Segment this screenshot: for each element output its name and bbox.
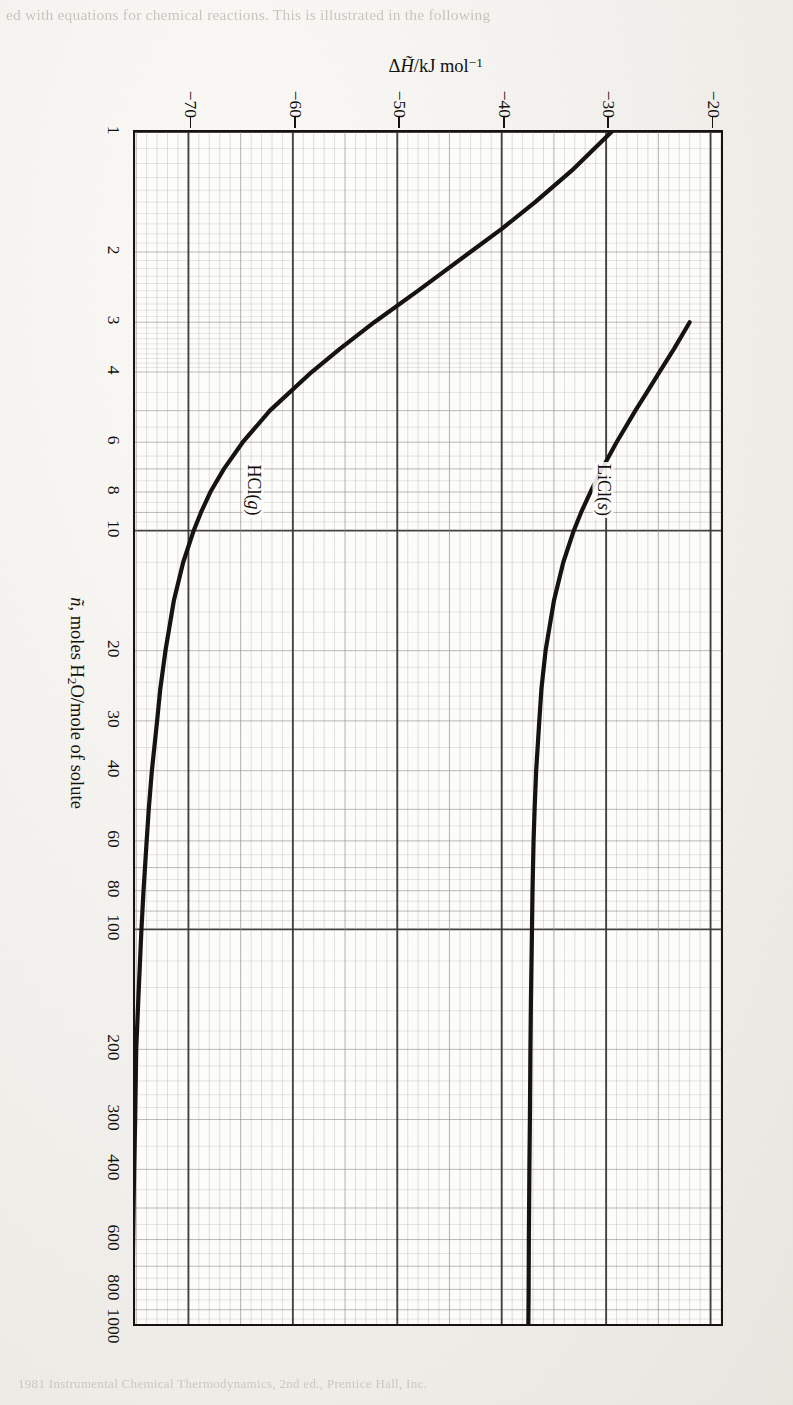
x-axis-title-symbol: ñ — [67, 597, 87, 606]
licl-curve-label: LiCl(s) — [592, 462, 613, 518]
x-tick-10: 10 — [103, 519, 124, 537]
x-axis-title-text-b: O/mole of solute — [67, 684, 87, 808]
annotation-state: g — [243, 500, 263, 509]
annotation-paren-close: ) — [593, 510, 613, 516]
x-axis-title: ñ, moles H2O/mole of solute — [63, 38, 86, 1368]
y-axis-enthalpy-symbol: H̃ — [400, 56, 413, 76]
chart-figure: 1234681020304060801002003004006008001000… — [47, 38, 747, 1368]
data-curves — [133, 132, 721, 1326]
x-tick-100: 100 — [103, 914, 124, 940]
x-tick-30: 30 — [103, 710, 124, 728]
annotation-formula: LiCl — [593, 464, 613, 497]
x-tick-4: 4 — [103, 365, 124, 374]
y-axis-delta-symbol: Δ — [388, 56, 400, 76]
y-axis-units-exponent: −1 — [468, 54, 482, 69]
scanned-page: ed with equations for chemical reactions… — [0, 0, 793, 1405]
x-tick-80: 80 — [103, 879, 124, 897]
y-tick-mark — [189, 117, 191, 128]
x-tick-20: 20 — [103, 639, 124, 657]
annotation-paren-open: ( — [243, 494, 263, 500]
plot-area — [133, 130, 723, 1326]
y-tick-mark — [502, 117, 504, 128]
x-tick-1: 1 — [103, 125, 124, 134]
y-tick-mark — [398, 117, 400, 128]
x-tick-300: 300 — [103, 1104, 124, 1130]
x-axis-title-text-a: , moles H — [67, 606, 87, 677]
x-tick-200: 200 — [103, 1034, 124, 1060]
x-tick-600: 600 — [103, 1224, 124, 1250]
annotation-state: s — [593, 503, 613, 510]
x-tick-8: 8 — [103, 485, 124, 494]
x-tick-400: 400 — [103, 1154, 124, 1180]
bleed-through-text-bottom: 1981 Instrumental Chemical Thermodynamic… — [18, 1376, 427, 1392]
x-tick-6: 6 — [103, 435, 124, 444]
curve-layer — [135, 132, 721, 1324]
y-axis-title: ΔH̃/kJ mol−1 — [155, 54, 715, 77]
y-tick-mark — [711, 117, 713, 128]
hcl-curve-label: HCl(g) — [242, 462, 263, 517]
annotation-formula: HCl — [243, 464, 263, 494]
rotated-figure-wrapper: 1234681020304060801002003004006008001000… — [47, 38, 747, 1368]
annotation-paren-close: ) — [243, 509, 263, 515]
x-tick-3: 3 — [103, 315, 124, 324]
x-tick-40: 40 — [103, 759, 124, 777]
x-tick-2: 2 — [103, 245, 124, 254]
y-tick-mark — [293, 117, 295, 128]
x-tick-60: 60 — [103, 830, 124, 848]
x-tick-1000: 1000 — [103, 1308, 124, 1343]
y-axis-units: /kJ mol — [413, 56, 468, 76]
bleed-through-text-top: ed with equations for chemical reactions… — [6, 6, 491, 23]
x-axis-title-subscript: 2 — [64, 677, 79, 684]
x-tick-800: 800 — [103, 1274, 124, 1300]
annotation-paren-open: ( — [593, 497, 613, 503]
y-tick-mark — [607, 117, 609, 128]
